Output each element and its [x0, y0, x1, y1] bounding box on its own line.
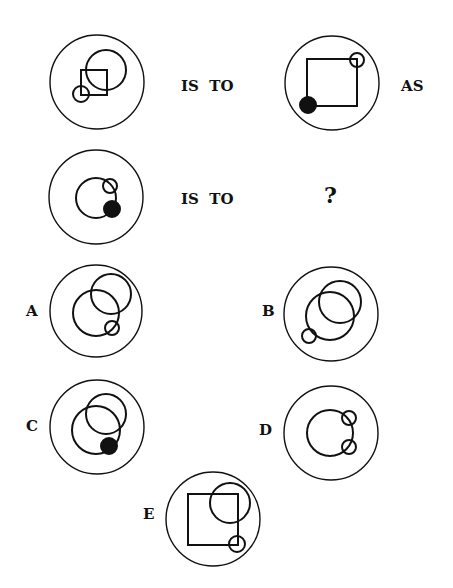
- frame-circle: [50, 380, 144, 474]
- figure-row1-right: [285, 36, 379, 130]
- small-circle: [302, 329, 316, 343]
- small-circle: [342, 411, 356, 425]
- square: [188, 494, 238, 545]
- option-c-label[interactable]: C: [26, 419, 38, 434]
- square: [81, 70, 107, 95]
- large-circle: [319, 281, 361, 323]
- option-b-label[interactable]: B: [262, 304, 275, 319]
- as-label: AS: [401, 79, 423, 94]
- figure-option-c[interactable]: [50, 380, 144, 474]
- question-mark: ?: [324, 184, 337, 206]
- is-to-label-row1: IS TO: [181, 79, 234, 94]
- frame-circle: [166, 472, 260, 566]
- large-circle: [307, 410, 353, 456]
- figure-row1-left: [50, 35, 144, 129]
- frame-circle: [284, 386, 378, 480]
- filled-circle: [300, 97, 316, 113]
- filled-circle: [101, 438, 117, 454]
- figure-option-b[interactable]: [284, 267, 378, 361]
- frame-circle: [50, 35, 144, 129]
- figure-option-d[interactable]: [284, 386, 378, 480]
- figure-option-e[interactable]: [166, 472, 260, 566]
- is-to-label-row2: IS TO: [181, 192, 234, 207]
- analogy-puzzle: IS TO AS IS TO ? A B C D E: [0, 0, 453, 588]
- large-circle: [86, 394, 126, 434]
- figure-row2-left: [49, 150, 143, 244]
- large-circle: [210, 483, 250, 523]
- frame-circle: [285, 36, 379, 130]
- option-e-label[interactable]: E: [143, 507, 154, 522]
- option-a-label[interactable]: A: [26, 304, 38, 319]
- frame-circle: [49, 150, 143, 244]
- large-circle: [91, 274, 131, 314]
- small-circle: [103, 179, 117, 193]
- small-circle: [105, 321, 119, 335]
- option-d-label[interactable]: D: [259, 423, 272, 438]
- frame-circle: [284, 267, 378, 361]
- figure-option-a[interactable]: [50, 265, 142, 357]
- large-circle: [306, 292, 354, 340]
- filled-circle: [104, 201, 120, 217]
- frame-circle: [50, 265, 142, 357]
